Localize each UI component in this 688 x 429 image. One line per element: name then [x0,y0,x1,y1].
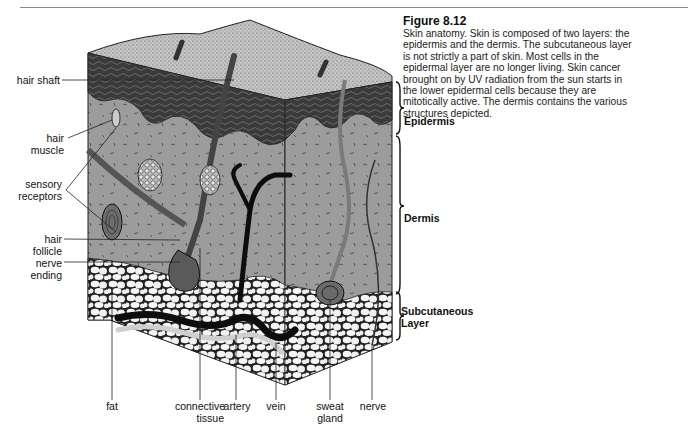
caption-line: epidermis and the dermis. The subcutaneo… [403,39,688,50]
label-hair-muscle: hair muscle [0,132,64,156]
layer-braces [396,82,404,340]
caption-line: Skin anatomy. Skin is composed of two la… [403,28,688,39]
label-hair-shaft: hair shaft [0,74,60,86]
label-nerve-ending: nerve ending [0,257,62,281]
caption-line: epidermal layer are no longer living. Sk… [403,62,688,73]
meissner-corpuscle [112,109,120,127]
caption-line: mitotically active. The dermis contains … [403,96,688,107]
label-nerve: nerve [355,400,391,412]
label-line: gland [312,412,348,424]
figure-caption: Figure 8.12 Skin anatomy. Skin is compos… [403,14,688,119]
label-sweat-gland: sweat gland [312,400,348,424]
figure-title: Figure 8.12 [403,14,688,28]
label-line: Subcutaneous [401,305,473,317]
label-sensory-receptors: sensory receptors [0,178,62,202]
label-line: tissue [170,412,230,424]
sebaceous-gland-1 [138,159,162,191]
label-hair-follicle: hair follicle [0,233,62,257]
sebaceous-gland-2 [200,165,220,195]
label-line: Layer [401,317,473,329]
label-line: follicle [0,245,62,257]
label-line: sweat [312,400,348,412]
caption-line: is not strictly a part of skin. Most cel… [403,51,688,62]
label-line: ending [0,269,62,281]
label-fat: fat [100,400,124,412]
layer-label-dermis: Dermis [404,212,440,224]
figure-caption-text: Skin anatomy. Skin is composed of two la… [403,28,688,119]
label-line: hair [0,233,62,245]
label-line: muscle [0,144,64,156]
label-line: sensory [0,178,62,190]
label-line: receptors [0,190,62,202]
label-line: hair [0,132,64,144]
layer-label-subcutaneous: Subcutaneous Layer [401,305,473,329]
caption-line: brought on by UV radiation from the sun … [403,74,688,85]
label-vein: vein [262,400,290,412]
sensory-receptor [102,204,122,240]
label-line: nerve [0,257,62,269]
caption-line: the lower epidermal cells because they a… [403,85,688,96]
label-artery: artery [220,400,254,412]
layer-label-epidermis: Epidermis [404,115,455,127]
